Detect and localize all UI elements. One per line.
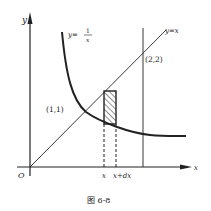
point-label-1-1: (1,1) [46, 105, 64, 114]
y-axis-label: y [21, 15, 28, 25]
y-axis [28, 12, 33, 176]
y-axis-arrow-icon [28, 12, 33, 24]
x-axis-label: x [194, 164, 198, 172]
svg-text:y=: y= [67, 31, 78, 39]
hyperbola-curve [62, 32, 186, 136]
strip-left-label: x [102, 172, 106, 180]
line-label: y=x [164, 27, 179, 35]
svg-text:1: 1 [86, 27, 90, 34]
origin-label: O [18, 171, 25, 180]
hyperbola-label: y= 1 x [67, 27, 92, 43]
strip-right-label: x+dx [113, 172, 131, 180]
x-axis-arrow-icon [180, 165, 192, 170]
line-y-equals-x [30, 30, 166, 167]
point-label-2-2: (2,2) [145, 55, 163, 64]
figure-caption: 图 6-8 [87, 196, 110, 205]
svg-text:x: x [86, 36, 90, 43]
hatched-strip [104, 91, 116, 124]
figure-6-8: y x O y=x y= 1 x (1,1) (2,2) x x+dx 图 6-… [0, 0, 211, 211]
